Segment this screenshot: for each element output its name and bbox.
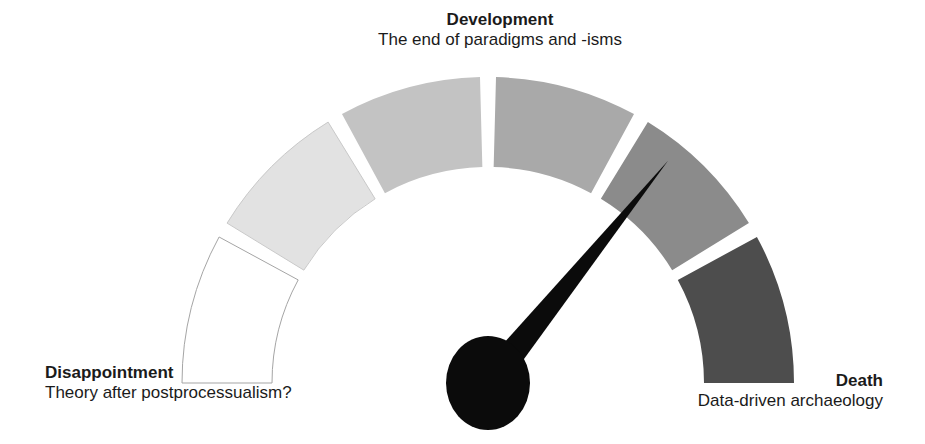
gauge-hub bbox=[446, 336, 530, 430]
gauge-segment-5 bbox=[601, 122, 749, 270]
gauge-segment-1-disappointment bbox=[182, 237, 298, 383]
label-disappointment: Disappointment Theory after postprocessu… bbox=[45, 363, 292, 403]
disappointment-subtitle: Theory after postprocessualism? bbox=[45, 383, 292, 403]
gauge-segment-4 bbox=[494, 77, 634, 193]
development-subtitle: The end of paradigms and -isms bbox=[378, 30, 622, 50]
gauge-segment-3 bbox=[342, 77, 482, 193]
development-title: Development bbox=[378, 10, 622, 30]
death-subtitle: Data-driven archaeology bbox=[698, 391, 883, 411]
disappointment-title: Disappointment bbox=[45, 363, 292, 383]
label-development: Development The end of paradigms and -is… bbox=[378, 10, 622, 50]
gauge-segment-6-death bbox=[678, 237, 794, 383]
gauge-figure: Development The end of paradigms and -is… bbox=[0, 0, 925, 444]
label-death: Death Data-driven archaeology bbox=[698, 371, 883, 411]
gauge-segment-2 bbox=[227, 122, 375, 270]
death-title: Death bbox=[698, 371, 883, 391]
